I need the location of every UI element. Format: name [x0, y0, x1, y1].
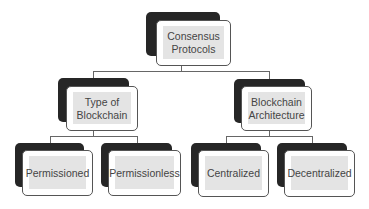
- node-box: Blockchain Architecture: [241, 86, 312, 131]
- node-label: Centralized: [207, 167, 260, 180]
- connector-to-blockchain-architecture: [269, 71, 270, 79]
- node-label: Consensus Protocols: [167, 30, 220, 56]
- node-box: Permissionless: [108, 150, 181, 196]
- node-label: Blockchain Architecture: [248, 96, 304, 122]
- connector-level1-horizontal: [93, 71, 270, 72]
- node-box: Permissioned: [22, 150, 93, 196]
- connector-arch-horizontal: [226, 136, 313, 137]
- node-box: Type of Blockchain: [66, 86, 138, 131]
- connector-type-horizontal: [50, 136, 138, 137]
- node-label: Permissioned: [26, 167, 90, 180]
- node-box: Centralized: [198, 150, 269, 197]
- node-box: Consensus Protocols: [156, 20, 231, 66]
- node-label: Type of Blockchain: [77, 96, 128, 122]
- node-label: Permissionless: [109, 167, 180, 180]
- node-box: Decentralized: [284, 150, 355, 197]
- node-label: Decentralized: [287, 167, 351, 180]
